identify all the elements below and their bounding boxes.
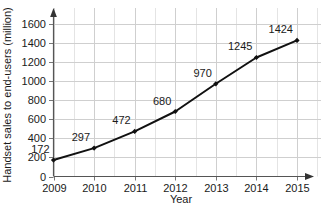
line-chart: 02004006008001000120014001600 2009201020… [0,0,321,210]
y-tick-label: 1400 [22,37,46,49]
x-tick-label: 2015 [285,182,309,194]
data-point-label: 1245 [228,40,252,52]
data-point-label: 680 [153,95,171,107]
data-point-label: 970 [193,67,211,79]
chart-container: 02004006008001000120014001600 2009201020… [0,0,321,210]
x-tick-label: 2011 [124,182,148,194]
x-tick-label: 2010 [82,182,106,194]
data-point-label: 472 [112,114,130,126]
x-tick-label: 2013 [204,182,228,194]
data-point-label: 172 [31,143,49,155]
data-point-label: 1424 [269,23,293,35]
y-tick-label: 1200 [22,56,46,68]
x-axis-title: Year [170,193,193,205]
x-tick-label: 2014 [244,182,268,194]
y-tick-label: 600 [28,113,46,125]
y-axis-title: Handset sales to end-users (million) [1,7,13,182]
x-tick-label: 2012 [163,182,187,194]
x-tick-label: 2009 [42,182,66,194]
y-tick-label: 1000 [22,75,46,87]
y-tick-label: 1600 [22,18,46,30]
data-point-label: 297 [72,131,90,143]
y-tick-label: 800 [28,94,46,106]
